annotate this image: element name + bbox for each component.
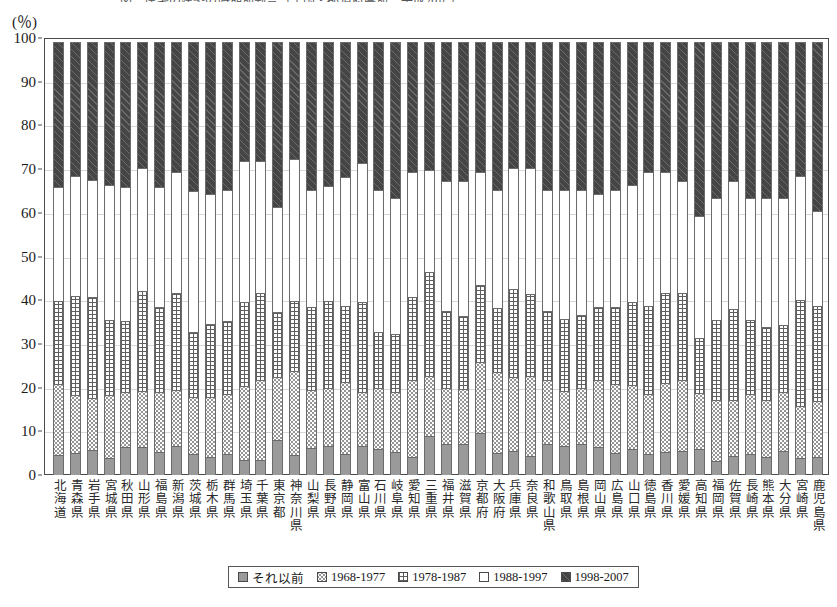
bar[interactable]: [677, 42, 688, 474]
bar-segment: [272, 42, 283, 208]
bar[interactable]: [239, 42, 250, 474]
x-axis-label: 静岡県: [337, 479, 351, 519]
bar[interactable]: [357, 42, 368, 474]
bar[interactable]: [627, 42, 638, 474]
bar[interactable]: [458, 42, 469, 474]
bar[interactable]: [525, 42, 536, 474]
bar-segment: [812, 211, 823, 306]
bar[interactable]: [576, 42, 587, 474]
bar[interactable]: [508, 42, 519, 474]
bar[interactable]: [255, 42, 266, 474]
bar[interactable]: [761, 42, 772, 474]
bar[interactable]: [407, 42, 418, 474]
bar[interactable]: [154, 42, 165, 474]
bar-segment: [289, 42, 300, 160]
bar[interactable]: [390, 42, 401, 474]
bar-segment: [171, 172, 182, 293]
legend-item[interactable]: 1978-1987: [398, 570, 466, 585]
bar-segment: [593, 380, 604, 448]
bar-segment: [610, 190, 621, 309]
bar[interactable]: [475, 42, 486, 474]
bar-segment: [627, 42, 638, 186]
bar-segment: [627, 449, 638, 475]
bar[interactable]: [441, 42, 452, 474]
bar[interactable]: [205, 42, 216, 474]
bar-segment: [323, 301, 334, 388]
bar[interactable]: [340, 42, 351, 474]
bar[interactable]: [87, 42, 98, 474]
bar[interactable]: [272, 42, 283, 474]
bar-segment: [508, 451, 519, 475]
bar[interactable]: [289, 42, 300, 474]
bar-segment: [728, 309, 739, 401]
bar-segment: [87, 297, 98, 399]
bar-segment: [306, 42, 317, 191]
bar-segment: [104, 320, 115, 396]
bar[interactable]: [53, 42, 64, 474]
bar-segment: [475, 285, 486, 363]
bar-segment: [255, 161, 266, 294]
bar[interactable]: [70, 42, 81, 474]
bar[interactable]: [222, 42, 233, 474]
bar-segment: [542, 42, 553, 191]
x-axis-label: 島根県: [573, 479, 587, 519]
bar[interactable]: [795, 42, 806, 474]
bar-segment: [525, 168, 536, 295]
bar-segment: [390, 334, 401, 393]
x-axis-label: 北海道: [50, 479, 64, 519]
bar[interactable]: [559, 42, 570, 474]
bar[interactable]: [728, 42, 739, 474]
legend-item[interactable]: 1968-1977: [317, 570, 385, 585]
bar-segment: [610, 453, 621, 475]
bar[interactable]: [610, 42, 621, 474]
bar[interactable]: [120, 42, 131, 474]
bar-segment: [70, 42, 81, 177]
bar[interactable]: [694, 42, 705, 474]
legend-item[interactable]: 1988-1997: [479, 570, 547, 585]
bar[interactable]: [373, 42, 384, 474]
legend-item[interactable]: 1998-2007: [561, 570, 629, 585]
x-axis-label: 鳥取県: [557, 479, 571, 519]
bar[interactable]: [424, 42, 435, 474]
bar[interactable]: [778, 42, 789, 474]
x-axis-label: 徳島県: [641, 479, 655, 519]
bar-segment: [728, 456, 739, 475]
bar-segment: [542, 444, 553, 475]
x-axis-label: 栃木県: [202, 479, 216, 519]
bar[interactable]: [711, 42, 722, 474]
bar-segment: [357, 163, 368, 303]
bar-segment: [593, 194, 604, 308]
bar-segment: [53, 187, 64, 302]
bar-segment: [289, 301, 300, 372]
bar[interactable]: [660, 42, 671, 474]
bar[interactable]: [643, 42, 654, 474]
x-axis-label: 青森県: [67, 479, 81, 519]
bar-segment: [492, 372, 503, 454]
bar[interactable]: [593, 42, 604, 474]
bar-segment: [373, 190, 384, 333]
bar[interactable]: [492, 42, 503, 474]
bar-segment: [745, 198, 756, 320]
bar[interactable]: [812, 42, 823, 474]
bar-segment: [643, 42, 654, 173]
bar-segment: [306, 390, 317, 449]
bar[interactable]: [323, 42, 334, 474]
bar-segment: [643, 172, 654, 307]
bar[interactable]: [188, 42, 199, 474]
bar-segment: [559, 319, 570, 392]
x-axis-label: 東京都: [270, 479, 284, 519]
bar[interactable]: [171, 42, 182, 474]
bar-segment: [677, 42, 688, 182]
bar[interactable]: [104, 42, 115, 474]
x-axis-label: 滋賀県: [455, 479, 469, 519]
bar-segment: [508, 289, 519, 378]
y-axis-tick-mark: [38, 212, 42, 213]
bar[interactable]: [137, 42, 148, 474]
bar-segment: [357, 42, 368, 164]
bar[interactable]: [542, 42, 553, 474]
x-axis-label: 埼玉県: [236, 479, 250, 519]
bar[interactable]: [306, 42, 317, 474]
bar[interactable]: [745, 42, 756, 474]
y-axis-tick-mark: [38, 475, 42, 476]
legend-item[interactable]: それ以前: [238, 568, 304, 587]
